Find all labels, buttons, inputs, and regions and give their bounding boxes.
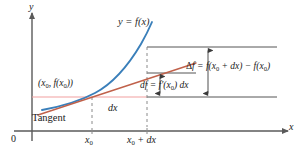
x-tick-label-x0-plus-dx: x0 + dx — [127, 135, 156, 147]
differential-diagram: y = f(x) (x0, f(x0)) Tangent dx df = f′(… — [0, 0, 303, 154]
delta-f-label: Δf = f(x0 + dx) − f(x0) — [186, 62, 270, 72]
x-axis-label: x — [289, 122, 293, 132]
tangent-point-label: (x0, f(x0)) — [38, 79, 73, 89]
df-label: df = f′(x0) dx — [140, 81, 188, 91]
origin-label: 0 — [11, 134, 16, 144]
y-axis-label: y — [29, 2, 33, 12]
tangent-label: Tangent — [32, 113, 66, 124]
curve-label: y = f(x) — [118, 17, 150, 28]
diagram-canvas — [0, 0, 303, 154]
dx-label: dx — [108, 103, 117, 113]
x-tick-label-x0: x0 — [85, 135, 93, 147]
